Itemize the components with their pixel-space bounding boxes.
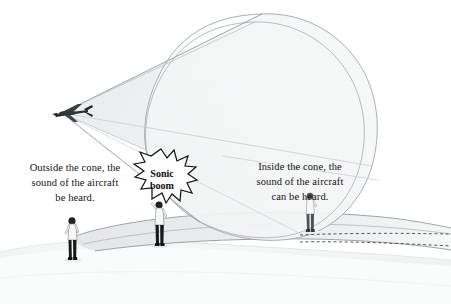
caption-outside-cone: Outside the cone, the sound of the aircr… bbox=[8, 161, 142, 206]
caption-inside-cone: Inside the cone, the sound of the aircra… bbox=[224, 160, 376, 205]
sonic-boom-label: Sonic boom bbox=[138, 168, 186, 192]
ground-terrain bbox=[0, 240, 451, 304]
shock-wave-cone bbox=[62, 14, 377, 241]
sonic-boom-diagram: Outside the cone, the sound of the aircr… bbox=[0, 0, 451, 304]
diagram-canvas bbox=[0, 0, 451, 304]
